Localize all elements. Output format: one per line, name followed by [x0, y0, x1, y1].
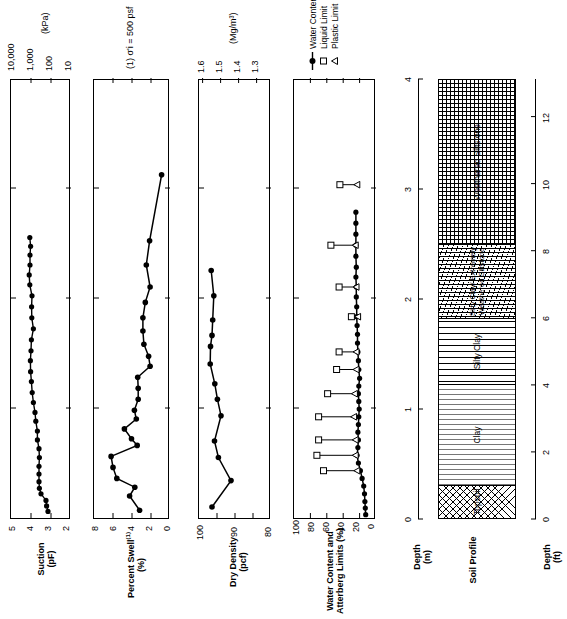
legend-label-liquid-limit: Liquid Limit [319, 6, 329, 49]
soil-layer-label-topsoil: Topsoil [472, 489, 482, 515]
dry-density-plot-area [198, 79, 270, 519]
swell-series-points [108, 172, 164, 513]
wc-ytick-0: 0 [367, 524, 376, 529]
wc-atterberg-stems [317, 185, 358, 471]
percent-swell-plot-area [93, 79, 169, 519]
percent-swell-footnote: (1) σ'i = 500 psf [125, 6, 135, 69]
soil-layer-label-weathered-siltstone: Weathered Siltstone [472, 124, 482, 200]
suction-right-tick-10: 10 [64, 61, 73, 71]
percent-swell-plot-svg [94, 78, 170, 518]
depth-ft-tick-4: 4 [542, 383, 551, 388]
suction-xticks [11, 188, 71, 408]
swell-ytick-8: 8 [91, 526, 100, 531]
suction-series-line [29, 238, 48, 512]
soil-layer-weathered-siltstone: Weathered Siltstone [439, 80, 515, 244]
panel-dry-density: Dry Density(pcf) 80 90 100 [188, 0, 280, 619]
depth-m-axis-line-wrap [418, 79, 428, 519]
swell-xticks [94, 188, 170, 408]
panel-depth-ft: Depth(ft) 0 2 4 6 8 10 12 [524, 0, 567, 619]
suction-ytick-5: 5 [8, 526, 17, 531]
panel-depth-m: Depth(m) 0 1 2 3 4 [392, 0, 430, 619]
panel-soil-profile: Soil Profile Topsoil Clay Silty Clay Sil… [432, 0, 524, 619]
depth-ft-axis-line-wrap [530, 79, 540, 519]
suction-ytick-3: 3 [44, 526, 53, 531]
swell-ytick-4: 4 [127, 526, 136, 531]
wc-ytick-40: 40 [337, 522, 346, 532]
legend-label-water-content: Water Content [308, 0, 318, 49]
suction-right-unit: (kPa) [40, 12, 50, 34]
suction-ytick-4: 4 [26, 526, 35, 531]
density-right-tick-15: 1.5 [215, 60, 224, 73]
wc-liquid-limit-points [314, 182, 355, 474]
depth-m-tick-4: 4 [404, 77, 413, 82]
soil-layer-topsoil: Topsoil [439, 485, 515, 518]
panel-suction: Suction(pF) 2 3 4 5 [0, 0, 80, 619]
depth-m-tick-2: 2 [404, 297, 413, 302]
wc-ytick-60: 60 [322, 522, 331, 532]
panel-percent-swell: Percent Swell(1)(%) 0 2 4 6 8 [85, 0, 180, 619]
density-xticks [199, 188, 271, 408]
depth-ft-axis-svg [530, 77, 540, 519]
depth-m-axis-title: Depth(m) [402, 529, 432, 585]
depth-ft-tick-10: 10 [542, 180, 551, 190]
suction-right-tick-100: 100 [45, 56, 54, 71]
density-yticks [203, 78, 257, 518]
depth-ft-tick-6: 6 [542, 316, 551, 321]
depth-ft-tick-12: 12 [542, 113, 551, 123]
legend-label-plastic-limit: Plastic Limit [330, 4, 340, 49]
depth-ft-tick-8: 8 [542, 249, 551, 254]
suction-yticks [31, 78, 51, 518]
swell-yticks [113, 78, 151, 518]
legend-item-liquid-limit: Liquid Limit [318, 0, 329, 71]
density-right-unit: (Mg/m³) [228, 13, 238, 45]
depth-m-axis-svg [418, 79, 428, 519]
soil-profile-title: Soil Profile [468, 525, 478, 595]
water-content-plot-svg [294, 78, 376, 518]
density-series-points [207, 268, 233, 510]
depth-m-tick-3: 3 [404, 187, 413, 192]
density-right-tick-13: 1.3 [251, 60, 260, 73]
wc-ytick-100: 100 [292, 520, 301, 535]
dry-density-axis-title: Dry Density(pcf) [218, 527, 248, 597]
soil-layer-silty-clay-extremely-weathered-siltstone: Silty Clay/ Extremely Weathered Siltston… [439, 244, 515, 317]
soil-layer-label-clay: Clay [472, 427, 482, 444]
density-ytick-100: 100 [196, 525, 205, 540]
soil-layer-silty-clay: Silty Clay [439, 318, 515, 385]
water-content-legend: Water Content Liquid Limit Plastic Limit [307, 0, 340, 71]
percent-swell-axis-title: Percent Swell(1)(%) [113, 525, 146, 605]
depth-ft-tick-0: 0 [542, 517, 551, 522]
legend-item-plastic-limit: Plastic Limit [329, 0, 340, 71]
open-triangle-icon [330, 49, 339, 71]
swell-series-line [111, 175, 162, 511]
density-series-line [210, 271, 231, 508]
swell-ytick-0: 0 [163, 526, 172, 531]
soil-layer-label-silty-clay: Silty Clay [472, 334, 482, 369]
suction-right-tick-1000: 1,000 [26, 48, 35, 71]
suction-right-tick-10000: 10,000 [7, 43, 16, 71]
wc-ytick-80: 80 [307, 522, 316, 532]
water-content-plot-area [293, 79, 375, 519]
density-right-tick-14: 1.4 [233, 60, 242, 73]
open-square-icon [319, 49, 328, 71]
wc-ytick-20: 20 [352, 522, 361, 532]
density-right-tick-16: 1.6 [197, 60, 206, 73]
depth-ft-tick-2: 2 [542, 450, 551, 455]
depth-ft-axis-title: Depth(ft) [532, 529, 562, 585]
suction-plot-area [10, 79, 70, 519]
dry-density-plot-svg [199, 78, 271, 518]
depth-m-tick-1: 1 [404, 407, 413, 412]
swell-ytick-6: 6 [109, 526, 118, 531]
legend-item-water-content: Water Content [307, 0, 318, 71]
depth-m-tick-0: 0 [404, 517, 413, 522]
suction-ytick-2: 2 [62, 526, 71, 531]
suction-axis-title: Suction(pF) [26, 529, 56, 589]
swell-ytick-2: 2 [145, 526, 154, 531]
suction-plot-svg [11, 78, 71, 518]
panel-water-content: Water Content andAtterberg Limits (%) 0 … [285, 0, 385, 619]
filled-circle-icon [308, 49, 317, 71]
density-ytick-90: 90 [230, 527, 239, 537]
water-content-axis-title: Water Content andAtterberg Limits (%) [315, 523, 345, 619]
density-ytick-80: 80 [264, 527, 273, 537]
